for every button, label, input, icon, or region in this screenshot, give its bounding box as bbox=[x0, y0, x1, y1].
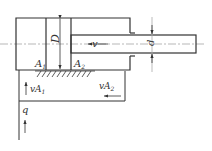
velocity-label: v bbox=[92, 38, 98, 49]
hydraulic-cylinder-diagram: D v d A1 A2 vA1 vA2 q bbox=[0, 0, 212, 151]
flow-cap-label: vA1 bbox=[30, 84, 45, 95]
ground-hatching bbox=[35, 71, 95, 77]
bore-diameter-label: D bbox=[49, 34, 62, 44]
area-cap-label: A1 bbox=[34, 58, 46, 70]
area-rod-label: A2 bbox=[73, 58, 85, 70]
flow-rod-label: vA2 bbox=[99, 81, 115, 92]
rod-diameter-label: d bbox=[145, 40, 156, 46]
flow-in-label: q bbox=[22, 104, 28, 115]
